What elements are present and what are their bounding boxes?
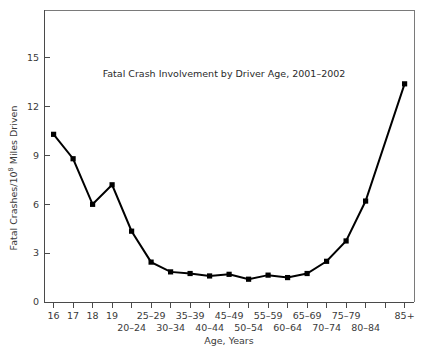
y-tick-label: 6	[33, 199, 39, 210]
y-tick-label: 12	[27, 101, 39, 112]
data-point-marker	[227, 272, 232, 277]
x-tick-label: 70–74	[312, 322, 341, 333]
y-tick-label: 3	[33, 247, 39, 258]
y-axis-title: Fatal Crashes/108 Miles Driven	[7, 106, 19, 251]
chart-title: Fatal Crash Involvement by Driver Age, 2…	[103, 68, 346, 79]
x-tick-label: 19	[106, 310, 118, 321]
x-axis-title: Age, Years	[204, 335, 254, 346]
data-point-marker	[266, 273, 271, 278]
data-point-marker	[324, 259, 329, 264]
data-point-marker	[207, 273, 212, 278]
y-tick-label: 0	[33, 296, 39, 307]
x-tick-label: 17	[67, 310, 79, 321]
x-tick-label: 30–34	[156, 322, 185, 333]
x-tick-label: 45–49	[215, 310, 244, 321]
y-axis-title-main: Fatal Crashes/10	[8, 171, 19, 250]
data-point-marker	[363, 198, 368, 203]
data-point-marker	[305, 271, 310, 276]
x-tick-label: 80–84	[351, 322, 380, 333]
x-tick-label: 75–79	[332, 310, 361, 321]
data-point-marker	[129, 229, 134, 234]
data-point-marker	[402, 81, 407, 86]
data-point-marker	[110, 182, 115, 187]
x-tick-label: 55–59	[254, 310, 283, 321]
data-point-marker	[149, 260, 154, 265]
x-tick-label: 25–29	[137, 310, 166, 321]
y-tick-label: 15	[27, 52, 39, 63]
x-tick-label: 35–39	[176, 310, 205, 321]
data-point-marker	[246, 277, 251, 282]
x-tick-label: 85+	[395, 310, 415, 321]
x-tick-label: 40–44	[195, 322, 224, 333]
data-point-marker	[90, 202, 95, 207]
data-point-marker	[285, 275, 290, 280]
x-tick-label: 16	[48, 310, 60, 321]
data-point-marker	[168, 269, 173, 274]
data-point-marker	[344, 238, 349, 243]
fatal-crash-line-chart: 0 3 6 9 12 15	[0, 0, 423, 353]
data-point-marker	[51, 132, 56, 137]
chart-figure: 0 3 6 9 12 15	[0, 0, 423, 353]
data-point-marker	[71, 156, 76, 161]
x-tick-label: 50–54	[234, 322, 263, 333]
y-axis-title-tail: Miles Driven	[8, 106, 19, 168]
y-tick-label: 9	[33, 150, 39, 161]
x-tick-label: 65–69	[293, 310, 322, 321]
x-tick-label: 18	[87, 310, 99, 321]
data-point-marker	[188, 271, 193, 276]
figure-background	[0, 0, 423, 353]
x-tick-label: 60–64	[273, 322, 302, 333]
x-tick-label: 20–24	[117, 322, 146, 333]
